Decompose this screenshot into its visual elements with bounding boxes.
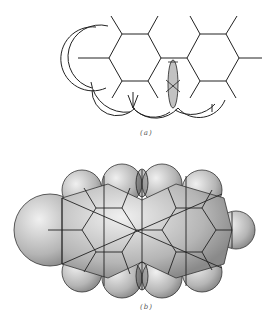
figure-b: (b) [0,150,277,324]
space-filling-diagram [0,150,277,324]
skeletal-diagram [0,0,277,150]
caption-a: (a) [140,129,153,137]
figure-a: (a) [0,0,277,150]
caption-b: (b) [140,303,153,311]
